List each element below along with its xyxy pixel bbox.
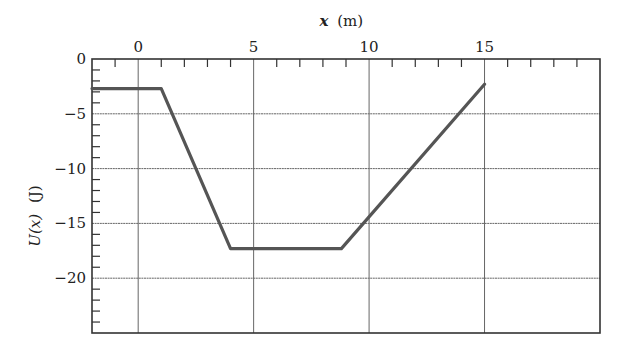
potential-energy-curve — [92, 84, 485, 248]
y-tick-label: −15 — [54, 214, 86, 232]
plot-frame — [92, 59, 600, 333]
x-tick-label: 5 — [249, 38, 259, 56]
x-axis-title: x (m) — [319, 12, 364, 30]
y-tick-label: −10 — [54, 160, 86, 178]
y-tick-label: −20 — [54, 269, 86, 287]
potential-energy-chart: 051015 0−5−10−15−20 x (m) U(x) (J) — [0, 0, 624, 351]
x-tick-label: 15 — [475, 38, 494, 56]
y-tick-labels: 0−5−10−15−20 — [54, 50, 86, 287]
y-tick-label: −5 — [64, 105, 86, 123]
x-tick-labels: 051015 — [133, 38, 494, 56]
grid-lines — [92, 59, 600, 333]
x-tick-label: 10 — [360, 38, 379, 56]
y-tick-label: 0 — [76, 50, 86, 68]
x-tick-label: 0 — [133, 38, 143, 56]
y-axis-title: U(x) (J) — [26, 185, 44, 246]
